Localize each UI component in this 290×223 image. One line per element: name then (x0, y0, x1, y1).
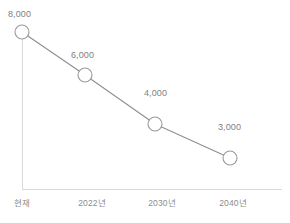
x-axis-tick-label: 2040년 (219, 199, 246, 208)
x-axis-tick-label: 2022년 (78, 199, 105, 208)
data-point-marker[interactable] (148, 117, 162, 131)
data-value-label: 3,000 (218, 123, 241, 132)
line-chart-figure: 8,000 6,000 4,000 3,000 현재 2022년 2030년 2… (0, 0, 290, 223)
data-point-markers (15, 25, 237, 165)
data-value-label: 4,000 (144, 89, 167, 98)
data-point-marker[interactable] (78, 68, 92, 82)
data-point-marker[interactable] (15, 25, 29, 39)
x-axis-tick-label: 현재 (14, 199, 30, 208)
series-line (22, 32, 230, 158)
series-line-group (22, 32, 230, 158)
data-point-marker[interactable] (223, 151, 237, 165)
data-value-label: 8,000 (8, 10, 31, 19)
data-value-label: 6,000 (71, 51, 94, 60)
x-axis-tick-label: 2030년 (148, 199, 175, 208)
axis-group (22, 32, 282, 190)
chart-canvas (0, 0, 290, 223)
